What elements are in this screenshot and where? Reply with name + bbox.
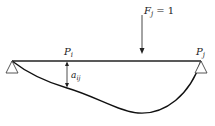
point-i-label: Pi: [63, 46, 73, 59]
left-support-icon: [6, 61, 18, 73]
beam-diagram: Fj= 1 Pi Pj aij: [0, 0, 215, 126]
deflection-dimension-arrow: [65, 62, 69, 88]
right-support-icon: [195, 61, 207, 73]
load-label: Fj= 1: [143, 5, 174, 18]
point-j-label: Pj: [195, 46, 206, 59]
load-arrow: [140, 15, 145, 54]
deflection-curve: [12, 61, 201, 113]
deflection-label: aij: [71, 70, 80, 82]
